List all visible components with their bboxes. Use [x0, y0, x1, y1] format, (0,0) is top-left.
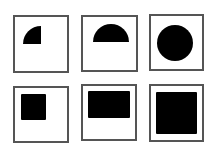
shape-grid-figure: [0, 0, 216, 148]
circle-shape: [157, 25, 193, 61]
panel-2: [82, 16, 137, 71]
panel-1: [14, 16, 68, 72]
rectangle-shape: [88, 91, 130, 118]
square-shape: [21, 94, 46, 120]
panel-5: [82, 85, 136, 140]
panel-4: [14, 87, 68, 142]
square-shape: [156, 92, 197, 134]
figure-canvas: [0, 0, 216, 148]
panel-3: [150, 15, 203, 70]
panel-6: [150, 85, 203, 141]
